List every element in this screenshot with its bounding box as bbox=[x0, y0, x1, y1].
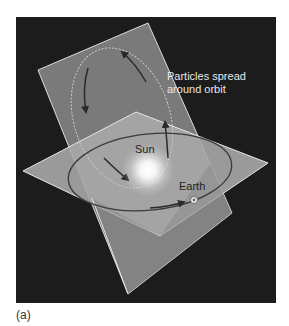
particles-label-line1: Particles spread bbox=[167, 70, 246, 82]
particles-label-line2: around orbit bbox=[167, 83, 226, 95]
figure-caption: (a) bbox=[16, 308, 31, 322]
earth-label: Earth bbox=[179, 180, 205, 192]
sun-label: Sun bbox=[135, 143, 155, 155]
meteor-stream-orbit-diagram: Particles spread around orbit Sun Earth bbox=[0, 0, 289, 326]
